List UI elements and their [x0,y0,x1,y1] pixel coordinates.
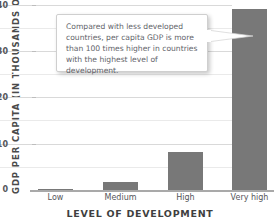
xtick-label-medium: Medium [96,193,145,202]
bar-medium [103,182,138,190]
callout-box: Compared with less developed countries, … [56,14,208,72]
ytick-mark-40 [32,5,36,6]
gridline-15 [0,120,232,121]
ytick-mark-20 [32,97,36,98]
x-axis-title: LEVEL OF DEVELOPMENT [0,208,280,219]
ytick-label-10: 10 [0,140,8,149]
ytick-mark-30 [32,51,36,52]
bar-high [168,152,203,190]
xtick-label-very-high: Very high [223,193,276,202]
x-axis-line [30,190,274,192]
xtick-label-low: Low [33,193,78,202]
bar-chart: GDP PER CAPITA (IN THOUSANDS OF US$) 40 … [0,0,280,223]
callout-text: Compared with less developed countries, … [66,22,202,77]
ytick-label-40: 40 [0,1,8,10]
xtick-label-high: High [163,193,208,202]
ytick-mark-10 [32,144,36,145]
ytick-label-0: 0 [0,185,8,194]
callout-pointer-icon [207,30,253,42]
ytick-label-20: 20 [0,93,8,102]
ytick-label-30: 30 [0,47,8,56]
